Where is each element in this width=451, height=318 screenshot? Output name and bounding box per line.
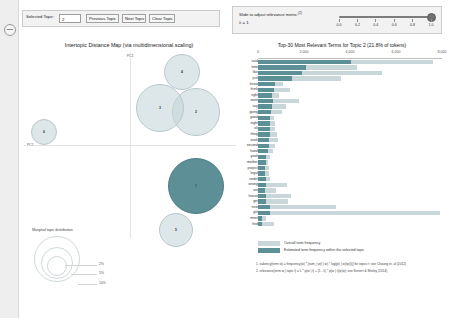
slider-tick-label: 0.4 <box>369 23 383 27</box>
footnote-relevance: 2. relevance(term w | topic t) = λ * p(w… <box>256 269 446 273</box>
clear-topic-button[interactable]: Clear Topic <box>149 14 175 23</box>
slider-tick-mark <box>357 19 358 22</box>
bar-topic-frequency <box>258 160 266 164</box>
left-gutter <box>0 0 19 318</box>
barchart-bar-group <box>258 194 442 198</box>
barchart-title: Top-30 Most Relevant Terms for Topic 2 (… <box>240 42 444 48</box>
slider-tick-0.0: 0.0 <box>332 19 346 27</box>
bar-topic-frequency <box>258 132 270 136</box>
barchart-term-label[interactable]: house <box>228 194 258 199</box>
relevance-slider-track[interactable] <box>339 16 431 19</box>
barchart-term-label[interactable]: time <box>228 65 258 70</box>
barchart-bar-group <box>258 127 442 131</box>
barchart-term-label[interactable]: right <box>228 93 258 98</box>
legend-swatch-topic <box>258 248 280 253</box>
barchart-bar-group <box>258 216 442 220</box>
barchart-term-label[interactable]: yeah <box>228 154 258 159</box>
selected-topic-input[interactable]: 2 <box>59 14 81 23</box>
barchart-term-label[interactable]: under <box>228 177 258 182</box>
barchart-term-label[interactable]: wrong <box>228 182 258 187</box>
marginal-topic-distribution-title: Marginal topic distribution <box>32 228 128 232</box>
barchart-bar-group <box>258 116 442 120</box>
topic-bubble-number: 5 <box>175 228 177 232</box>
slider-tick-label: 1.0 <box>424 23 438 27</box>
relevance-slider-label: Slide to adjust relevance metric:(2) <box>239 11 302 17</box>
mds-axis-label-pc1: PC1 <box>26 143 35 147</box>
selected-topic-label: Selected Topic: <box>26 14 54 19</box>
bar-topic-frequency <box>258 144 269 148</box>
bar-topic-frequency <box>258 216 262 220</box>
topic-bubble-number: 6 <box>43 130 45 134</box>
slider-tick-0.6: 0.6 <box>387 19 401 27</box>
barchart-term-label[interactable]: just <box>228 76 258 81</box>
barchart-xtick-0: 0 <box>243 50 273 54</box>
bar-topic-frequency <box>258 127 270 131</box>
mds-title: Intertopic Distance Map (via multidimens… <box>22 42 236 48</box>
barchart-term-label[interactable]: get <box>228 199 258 204</box>
barchart-term-label[interactable]: out <box>228 188 258 193</box>
barchart-bar-group <box>258 155 442 159</box>
barchart-term-label[interactable]: thing <box>228 132 258 137</box>
barchart-bar-group <box>258 99 442 103</box>
topic-bubble-4[interactable]: 4 <box>164 54 200 90</box>
marginal-topic-size-circles: 2% 5% 10% <box>34 236 92 282</box>
barchart-term-label[interactable]: find <box>228 222 258 227</box>
intertopic-distance-map[interactable]: PC2 PC1 123456 <box>24 52 236 238</box>
topic-bubble-3[interactable]: 3 <box>136 84 184 132</box>
previous-topic-button[interactable]: Previous Topic <box>86 14 119 23</box>
barchart-bar-group <box>258 160 442 164</box>
next-topic-button[interactable]: Next Topic <box>122 14 146 23</box>
barchart-term-label[interactable]: legal <box>228 171 258 176</box>
slider-tick-label: 0.8 <box>406 23 420 27</box>
barchart-term-label[interactable]: night <box>228 121 258 126</box>
topic-bubble-1[interactable]: 1 <box>168 158 224 214</box>
barchart-bar-group <box>258 138 442 142</box>
topic-toolbar: Selected Topic: 2 Previous Topic Next To… <box>22 10 220 27</box>
topic-bubble-5[interactable]: 5 <box>159 213 193 247</box>
barchart-bar-group <box>258 110 442 114</box>
bar-topic-frequency <box>258 60 351 64</box>
barchart-term-label[interactable]: going <box>228 110 258 115</box>
bar-topic-frequency <box>258 121 270 125</box>
barchart-term-label[interactable]: know <box>228 82 258 87</box>
barchart-bar-group <box>258 76 442 80</box>
barchart-term-label[interactable]: say <box>228 104 258 109</box>
bar-topic-frequency <box>258 110 271 114</box>
barchart-term-label[interactable]: want <box>228 98 258 103</box>
barchart-term-label[interactable]: mother <box>228 160 258 165</box>
bar-topic-frequency <box>258 205 270 209</box>
size-label-5: 5% <box>99 271 104 275</box>
barchart-term-label[interactable]: good <box>228 115 258 120</box>
barchart-term-label[interactable]: project <box>228 166 258 171</box>
slider-tick-0.8: 0.8 <box>406 19 420 27</box>
barchart-term-label[interactable]: like <box>228 70 258 75</box>
barchart-bar-group <box>258 104 442 108</box>
barchart-bar-group <box>258 88 442 92</box>
barchart-term-label[interactable]: said <box>228 59 258 64</box>
barchart-row[interactable]: find <box>240 221 444 227</box>
bar-topic-frequency <box>258 171 265 175</box>
collapse-icon[interactable] <box>4 24 16 36</box>
barchart-term-label[interactable]: work <box>228 138 258 143</box>
barchart-term-label[interactable]: ok <box>228 126 258 131</box>
barchart-term-label[interactable]: think <box>228 87 258 92</box>
barchart-term-label[interactable]: meet <box>228 216 258 221</box>
topic-bubble-number: 4 <box>181 70 183 74</box>
bar-topic-frequency <box>258 82 275 86</box>
bar-topic-frequency <box>258 104 272 108</box>
barchart-term-label[interactable]: second <box>228 143 258 148</box>
bar-topic-frequency <box>258 188 265 192</box>
slider-tick-label: 0.2 <box>350 23 364 27</box>
barchart-term-label[interactable]: hand <box>228 149 258 154</box>
barchart-term-label[interactable]: new <box>228 205 258 210</box>
barchart-term-label[interactable]: girl <box>228 210 258 215</box>
topic-bubble-6[interactable]: 6 <box>31 119 57 145</box>
barchart-legend: Overall term frequency Estimated term fr… <box>258 240 444 254</box>
size-leader-2 <box>65 265 97 266</box>
mds-horizontal-axis <box>24 145 236 146</box>
bar-topic-frequency <box>258 76 292 80</box>
bar-topic-frequency <box>258 71 302 75</box>
slider-tick-mark <box>431 19 432 22</box>
barchart-xtick-6000: 6,000 <box>381 50 411 54</box>
